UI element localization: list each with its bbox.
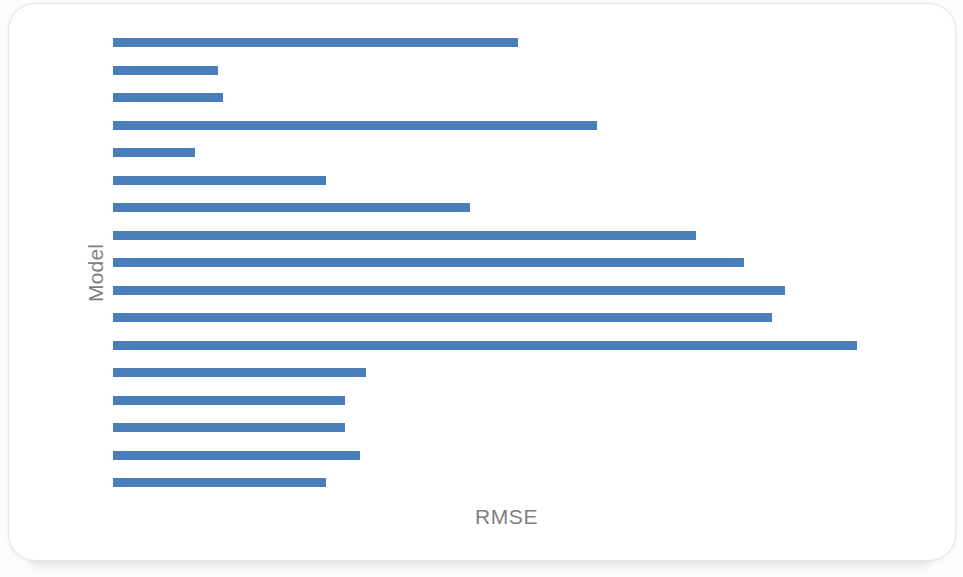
chart-card	[9, 4, 955, 560]
y-axis-title: Model	[84, 244, 108, 302]
x-axis-title: RMSE	[0, 505, 963, 529]
